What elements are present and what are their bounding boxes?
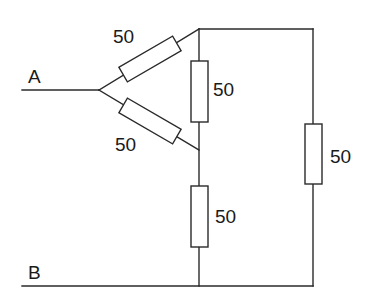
resistor-r4 (191, 186, 208, 247)
resistor-r5 (305, 124, 322, 184)
resistor-r2-label: 50 (115, 134, 136, 155)
resistor-r3 (191, 61, 208, 122)
terminal-a-label: A (28, 66, 41, 87)
resistor-r4-label: 50 (215, 206, 236, 227)
terminal-b-label: B (28, 262, 41, 283)
resistor-r3-label: 50 (213, 79, 234, 100)
circuit-diagram: A B 50 50 50 50 50 (0, 0, 368, 305)
wires (22, 29, 313, 286)
resistor-r1-label: 50 (113, 26, 134, 47)
resistor-r5-label: 50 (330, 146, 351, 167)
